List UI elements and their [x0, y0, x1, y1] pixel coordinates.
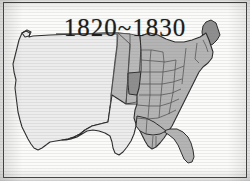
map-figure: 1820~1830 — [0, 0, 250, 181]
united-states-map — [0, 0, 250, 181]
region-florida — [163, 129, 194, 163]
